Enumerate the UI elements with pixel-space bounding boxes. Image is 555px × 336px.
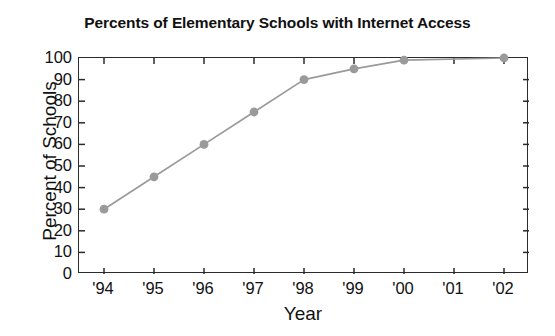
y-tick-label: 0 [26, 265, 72, 282]
x-tick-label: '95 [131, 280, 175, 297]
axis-ticks [79, 58, 529, 274]
chart-title: Percents of Elementary Schools with Inte… [0, 14, 555, 32]
y-tick-label: 20 [26, 222, 72, 239]
data-point-marker [100, 205, 109, 214]
y-tick-label: 50 [26, 157, 72, 174]
y-tick-label: 30 [26, 200, 72, 217]
chart-figure: Percents of Elementary Schools with Inte… [0, 0, 555, 336]
data-point-marker [500, 54, 509, 63]
plot-area [78, 57, 528, 273]
y-tick-label: 100 [26, 49, 72, 66]
data-point-marker [200, 140, 209, 149]
data-point-marker [250, 108, 259, 117]
x-axis-tick-labels: '94'95'96'97'98'99'00'01'02 [78, 280, 528, 302]
line-chart-plot [79, 58, 529, 274]
x-tick-label: '98 [281, 280, 325, 297]
data-point-marker [300, 75, 309, 84]
x-axis-title: Year [78, 303, 528, 325]
y-tick-label: 40 [26, 178, 72, 195]
x-tick-label: '02 [481, 280, 525, 297]
data-point-marker [350, 64, 359, 73]
data-point-marker [150, 172, 159, 181]
y-tick-label: 10 [26, 243, 72, 260]
x-tick-label: '99 [331, 280, 375, 297]
x-tick-label: '01 [431, 280, 475, 297]
data-point-marker [400, 56, 409, 65]
y-tick-label: 80 [26, 92, 72, 109]
x-tick-label: '96 [181, 280, 225, 297]
data-point-markers [100, 54, 509, 214]
y-tick-label: 70 [26, 114, 72, 131]
x-tick-label: '00 [381, 280, 425, 297]
y-tick-label: 60 [26, 135, 72, 152]
x-tick-label: '94 [81, 280, 125, 297]
y-tick-label: 90 [26, 70, 72, 87]
y-axis-tick-labels: 0102030405060708090100 [22, 57, 72, 273]
x-tick-label: '97 [231, 280, 275, 297]
